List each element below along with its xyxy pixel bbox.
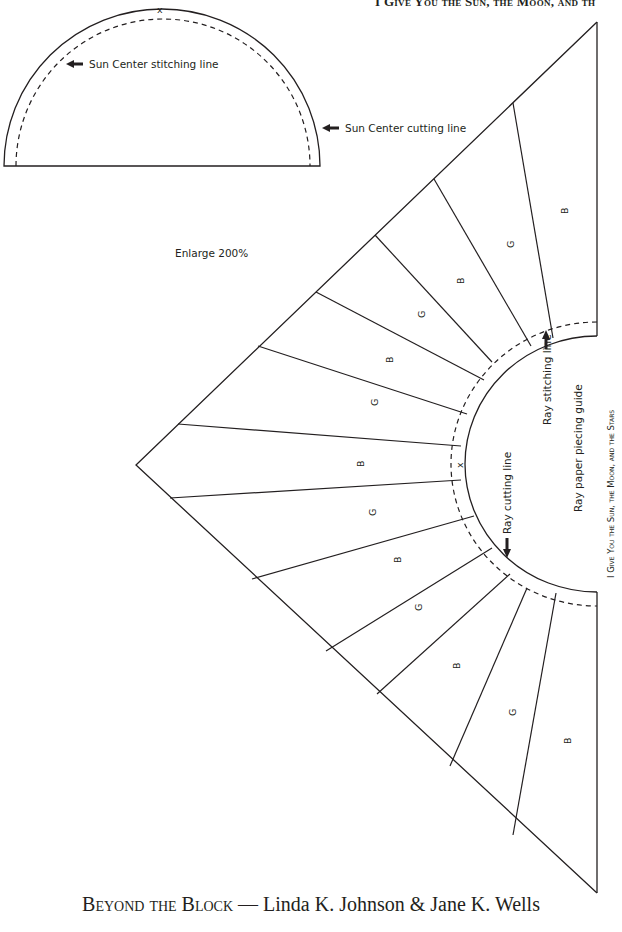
ray-center-mark: x [454, 462, 465, 468]
segment-label: B [559, 207, 570, 214]
enlarge-instruction: Enlarge 200% [175, 247, 248, 259]
ray-fan-template: B G B G B G B G B G B G B x Ray stitchin… [136, 22, 597, 893]
sun-center-template: x Sun Center stitching line Sun Center c… [4, 4, 466, 166]
ray-guide-title: Ray paper piecing guide [572, 384, 584, 512]
arrow-icon [322, 124, 339, 132]
segment-label: B [451, 662, 462, 669]
sun-center-stitching-label: Sun Center stitching line [89, 58, 219, 70]
segment-label: G [416, 311, 427, 318]
page-footer: Beyond the Block — Linda K. Johnson & Ja… [0, 893, 622, 916]
segment-label: B [455, 277, 466, 284]
ray-stitching-label: Ray stitching line [541, 334, 553, 425]
arrow-icon [66, 60, 83, 68]
side-caption: I Give You the Sun, the Moon, and the St… [606, 410, 616, 578]
segment-label: B [562, 737, 573, 744]
footer-separator: — [233, 893, 263, 915]
sun-center-cutting-outline [4, 9, 320, 166]
footer-authors: Linda K. Johnson & Jane K. Wells [263, 893, 540, 915]
segment-label: G [507, 709, 518, 716]
sun-center-cutting-label: Sun Center cutting line [345, 122, 466, 134]
ray-outer-edge [136, 22, 597, 893]
pattern-drawing: x Sun Center stitching line Sun Center c… [0, 0, 622, 932]
sun-center-stitching-outline [16, 19, 310, 166]
segment-label: G [413, 604, 424, 611]
segment-label: G [369, 399, 380, 406]
segment-label: B [392, 556, 403, 563]
segment-label: B [384, 356, 395, 363]
segment-label: G [505, 241, 516, 248]
ray-cutting-label: Ray cutting line [501, 452, 513, 534]
segment-label: B [355, 460, 366, 467]
segment-labels: B G B G B G B G B G B G B [355, 207, 573, 744]
segment-label: G [367, 509, 378, 516]
sun-center-mark: x [157, 4, 163, 15]
footer-book-title: Beyond the Block [82, 893, 233, 915]
ray-division-lines [170, 103, 556, 835]
